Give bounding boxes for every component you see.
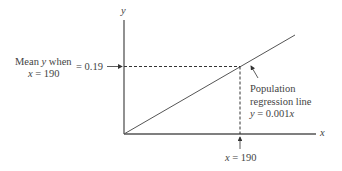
mean-value-label: = 0.19 [76,61,103,73]
regression-equation: y = 0.001x [250,108,294,120]
x-axis-label: x [320,127,325,139]
regression-arrow-icon [251,66,258,78]
y-axis-label: y [121,5,126,17]
regression-line-label: regression line [250,96,312,108]
mean-y-label: Mean y when [15,56,72,68]
population-label: Population [250,83,296,95]
mean-x-label: x = 190 [28,68,60,80]
x190-label: x = 190 [225,152,257,164]
